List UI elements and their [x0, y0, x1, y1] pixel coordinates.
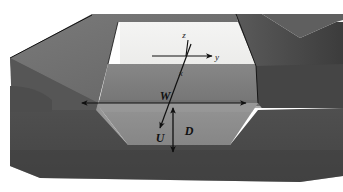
base-shadow-band [10, 150, 343, 182]
figure-container: z y x W D U [0, 0, 343, 192]
axis-z-label: z [181, 30, 186, 40]
right-block-front-upper [256, 64, 343, 108]
depth-label: D [184, 124, 194, 138]
block-diagram-svg: z y x W D U [0, 0, 343, 192]
axis-x-label: x [178, 68, 183, 78]
velocity-label: U [156, 131, 166, 145]
channel-floor-highlight [96, 103, 258, 112]
width-label: W [160, 89, 172, 103]
axis-y-label: y [214, 52, 219, 62]
